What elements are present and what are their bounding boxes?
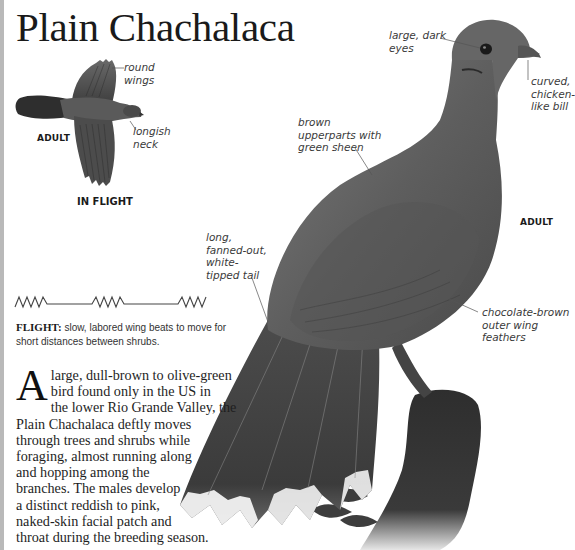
description-line: through trees and shrubs while [16, 432, 206, 448]
description-line: naked-skin facial patch and [16, 513, 206, 529]
description-line: a distinct reddish to pink, [16, 497, 206, 513]
description-line: branches. The males develop [16, 480, 206, 496]
callout-curved-bill: curved, chicken- like bill [531, 75, 575, 113]
callout-large-dark-eyes: large, dark eyes [389, 29, 446, 54]
callout-brown-upperparts: brown upperparts with green sheen [298, 116, 381, 154]
callout-chocolate-brown-feathers: chocolate-brown outer wing feathers [482, 306, 569, 344]
callout-white-tipped-tail: long, fanned-out, white- tipped tail [206, 231, 267, 281]
description-line: Plain Chachalaca deftly moves [16, 416, 206, 432]
species-description: A large, dull-brown to olive-green bird … [16, 367, 206, 545]
description-line: and hopping among the [16, 464, 206, 480]
description-line: throat during the breeding season. [16, 529, 206, 545]
description-line: foraging, almost running along [16, 448, 206, 464]
drop-cap: A [16, 369, 48, 403]
main-adult-label: ADULT [520, 217, 553, 227]
